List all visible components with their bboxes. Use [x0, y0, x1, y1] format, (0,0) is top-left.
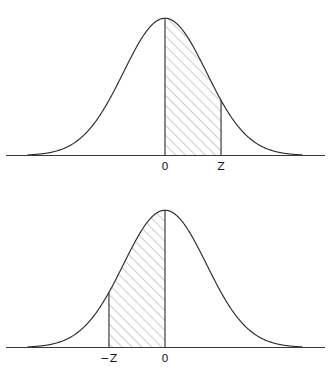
- shaded-area-upper: [165, 18, 221, 155]
- figure-root: 0 Z −Z 0: [0, 0, 334, 372]
- chart-panel-upper: 0 Z: [0, 0, 334, 186]
- normal-curve-chart-upper: 0 Z: [0, 0, 334, 186]
- tick-label-z-upper: Z: [217, 160, 225, 173]
- shaded-area-lower: [109, 210, 165, 347]
- chart-panel-lower: −Z 0: [0, 186, 334, 372]
- tick-label-zero-lower: 0: [161, 352, 168, 365]
- normal-curve-chart-lower: −Z 0: [0, 186, 334, 372]
- tick-label-negz-lower: −Z: [100, 352, 117, 365]
- tick-label-zero-upper: 0: [161, 160, 168, 173]
